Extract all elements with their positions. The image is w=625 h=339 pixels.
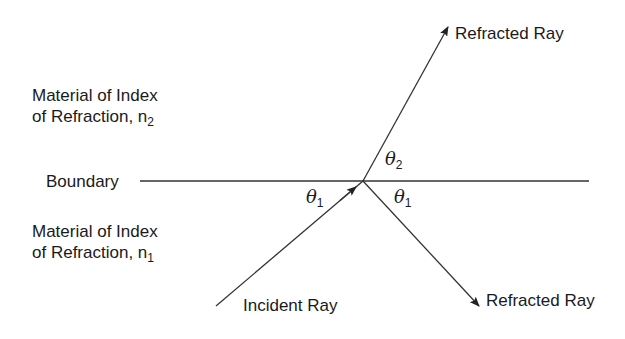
refraction-diagram: Material of Index of Refraction, n2 Boun… [0,0,625,339]
lower-material-line1: Material of Index [32,221,158,242]
boundary-label: Boundary [46,171,119,192]
incident-ray-arrowhead [340,187,356,201]
refracted-ray-lower-line [363,181,479,306]
theta1-incident-label: θ1 [306,186,324,214]
theta2-refracted-label: θ2 [385,148,403,176]
diagram-lines [0,0,625,339]
refracted-ray-upper-label: Refracted Ray [455,23,564,44]
incident-ray-label: Incident Ray [243,295,338,316]
theta1-reflected-label: θ1 [394,186,412,214]
upper-material-label: Material of Index of Refraction, n2 [32,85,158,133]
lower-material-line2: of Refraction, n1 [32,242,158,269]
upper-material-line1: Material of Index [32,85,158,106]
refracted-ray-upper-line [363,27,448,181]
upper-material-line2: of Refraction, n2 [32,106,158,133]
lower-material-label: Material of Index of Refraction, n1 [32,221,158,269]
refracted-ray-lower-label: Refracted Ray [486,290,595,311]
